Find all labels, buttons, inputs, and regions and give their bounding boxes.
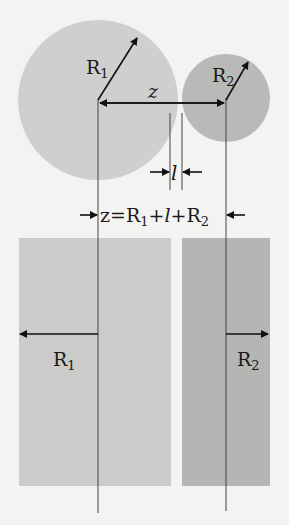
sphere-slab-diagram: R1 R2 z l z=R1+l+R2 R1 R2 [0, 0, 289, 525]
slab-1 [19, 238, 171, 486]
equation: z=R1+l+R2 [100, 204, 209, 229]
label-l: l [171, 161, 177, 185]
label-z: z [147, 80, 159, 102]
